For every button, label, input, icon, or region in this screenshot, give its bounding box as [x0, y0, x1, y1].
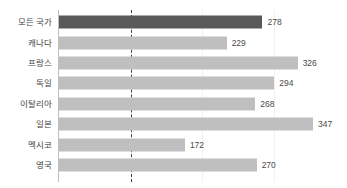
- bar-row: 멕시코172: [0, 134, 347, 154]
- category-label: 일본: [0, 119, 52, 129]
- category-label: 모든 국가: [0, 17, 52, 27]
- bar-row: 일본347: [0, 114, 347, 134]
- category-label: 멕시코: [0, 140, 52, 150]
- bar-chart: 모든 국가278캐나다229프랑스326독일294이탈리아268일본347멕시코…: [0, 0, 347, 188]
- bar-value-label: 326: [303, 58, 317, 68]
- category-label: 이탈리아: [0, 99, 52, 109]
- bar: [59, 97, 255, 110]
- category-label: 독일: [0, 78, 52, 88]
- category-label: 프랑스: [0, 58, 52, 68]
- category-label: 영국: [0, 160, 52, 170]
- bar-value-label: 268: [260, 99, 274, 109]
- bar-value-label: 278: [267, 17, 281, 27]
- bar: [59, 138, 185, 151]
- bar-value-label: 347: [318, 119, 332, 129]
- bar-row: 프랑스326: [0, 53, 347, 73]
- bar: [59, 36, 227, 49]
- bar-row: 독일294: [0, 73, 347, 93]
- bar-value-label: 270: [262, 160, 276, 170]
- bar-rows: 모든 국가278캐나다229프랑스326독일294이탈리아268일본347멕시코…: [0, 10, 347, 182]
- bar: [59, 158, 257, 171]
- bar-row: 이탈리아268: [0, 94, 347, 114]
- bar-row: 영국270: [0, 155, 347, 175]
- bar-value-label: 172: [190, 140, 204, 150]
- bar-row: 캐나다229: [0, 32, 347, 52]
- bar: [59, 77, 274, 90]
- bar-value-label: 294: [279, 78, 293, 88]
- bar: [59, 118, 313, 131]
- bar: [59, 16, 262, 29]
- bar-row: 모든 국가278: [0, 12, 347, 32]
- bar: [59, 56, 298, 69]
- bar-value-label: 229: [232, 38, 246, 48]
- category-label: 캐나다: [0, 38, 52, 48]
